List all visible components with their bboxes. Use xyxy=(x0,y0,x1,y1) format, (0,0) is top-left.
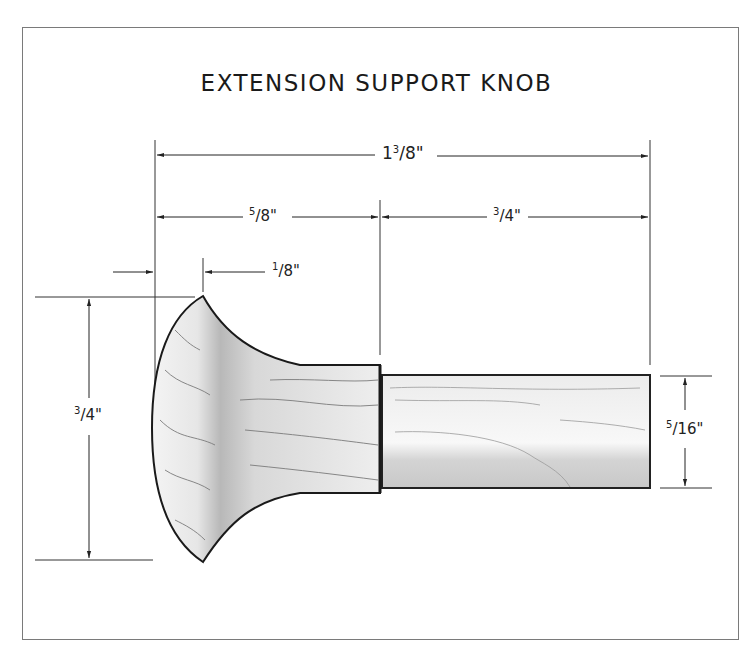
dim-tenon-diameter: 5/16" xyxy=(666,420,703,437)
dim-overall-length: 13/8" xyxy=(382,145,424,162)
knob-head xyxy=(152,296,380,562)
extension-lines xyxy=(35,140,712,560)
dim-rim-offset: 1/8" xyxy=(272,262,300,279)
knob-drawing xyxy=(0,0,753,655)
dim-head-length: 5/8" xyxy=(249,207,277,224)
dim-head-diameter: 3/4" xyxy=(74,406,102,423)
dim-tenon-length: 3/4" xyxy=(493,207,521,224)
